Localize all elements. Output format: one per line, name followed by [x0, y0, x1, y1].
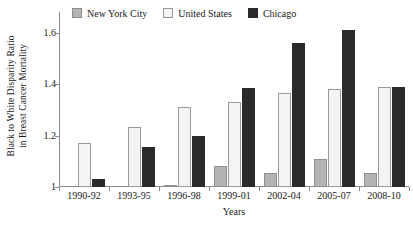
bar[interactable]	[342, 30, 355, 187]
y-axis-tick-label: 1.6	[30, 28, 56, 38]
bar-group	[214, 12, 255, 187]
y-axis-tick-mark	[55, 136, 59, 137]
bar[interactable]	[378, 87, 391, 187]
y-axis-tick-mark	[55, 33, 59, 34]
x-axis-tick-label: 2002-04	[267, 189, 300, 202]
bar[interactable]	[364, 173, 377, 187]
bar-group	[314, 12, 355, 187]
plot-area	[59, 12, 409, 187]
bar[interactable]	[128, 127, 141, 187]
legend-label: United States	[178, 8, 232, 19]
x-axis-tick-mark	[409, 187, 410, 191]
bar-group	[64, 12, 105, 187]
bar[interactable]	[278, 93, 291, 187]
x-axis-tick-label: 1990-92	[67, 189, 100, 202]
legend-swatch-icon	[163, 8, 173, 18]
legend-item[interactable]: Chicago	[248, 8, 296, 19]
x-axis-tick-label: 2005-07	[317, 189, 350, 202]
x-axis-tick-label: 2008-10	[367, 189, 400, 202]
legend-item[interactable]: United States	[163, 8, 232, 19]
bar[interactable]	[242, 88, 255, 187]
y-axis-tick-mark	[55, 84, 59, 85]
bar[interactable]	[392, 87, 405, 187]
bar[interactable]	[328, 89, 341, 187]
x-axis-tick-label: 1996-98	[167, 189, 200, 202]
y-axis-tick-label: 1.4	[30, 79, 56, 89]
bar[interactable]	[164, 185, 177, 187]
bar[interactable]	[264, 173, 277, 187]
x-axis-title: Years	[59, 205, 409, 218]
legend-label: Chicago	[263, 8, 296, 19]
bar[interactable]	[92, 179, 105, 187]
bar[interactable]	[314, 159, 327, 187]
bars-container	[59, 12, 409, 187]
bar-group	[114, 12, 155, 187]
chart-legend: New York CityUnited StatesChicago	[72, 6, 296, 20]
x-axis-tick-labels: 1990-921993-951996-981999-012002-042005-…	[59, 189, 409, 205]
bar[interactable]	[214, 166, 227, 187]
bar[interactable]	[192, 136, 205, 187]
x-axis-tick-label: 1993-95	[117, 189, 150, 202]
y-axis-tick-label: 1	[30, 182, 56, 192]
bar[interactable]	[178, 107, 191, 187]
bar-group	[164, 12, 205, 187]
bar[interactable]	[78, 143, 91, 187]
bar-chart-figure: Black to White Disparity Ratio in Breast…	[0, 0, 413, 233]
legend-swatch-icon	[248, 8, 258, 18]
legend-label: New York City	[87, 8, 147, 19]
bar[interactable]	[228, 102, 241, 187]
y-axis-title-line1: Black to White Disparity Ratio	[6, 35, 16, 156]
bar[interactable]	[142, 147, 155, 187]
y-axis-tick-labels: 11.21.41.6	[28, 0, 56, 233]
bar[interactable]	[292, 43, 305, 187]
bar-group	[264, 12, 305, 187]
y-axis-tick-label: 1.2	[30, 131, 56, 141]
legend-item[interactable]: New York City	[72, 8, 147, 19]
x-axis-tick-label: 1999-01	[217, 189, 250, 202]
bar-group	[364, 12, 405, 187]
legend-swatch-icon	[72, 8, 82, 18]
